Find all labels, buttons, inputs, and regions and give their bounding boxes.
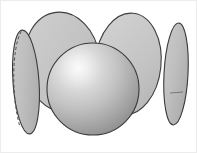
center-sphere-surface [47, 43, 139, 135]
figure-canvas [0, 0, 197, 153]
geometry-illustration [0, 0, 197, 153]
center-sphere [47, 43, 139, 135]
